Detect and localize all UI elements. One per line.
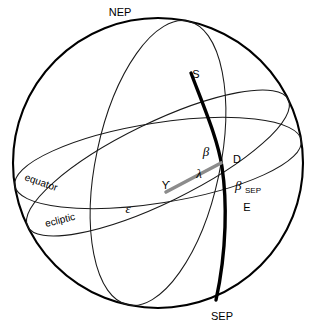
equator-great-circle (9, 101, 308, 225)
equator-label: equator (23, 171, 59, 193)
ecliptic-ellipse (10, 63, 306, 262)
epsilon-label: ε (125, 201, 131, 216)
lambda-radius-line (166, 163, 221, 192)
beta-sep-subscript: SEP (245, 186, 261, 195)
ecliptic-meridian-arc (191, 73, 225, 300)
sphere-outline (13, 18, 303, 308)
ecliptic-great-circle (10, 63, 306, 262)
celestial-sphere-diagram: NEP SEP S D E equator ecliptic ϒ β λ ε β… (0, 0, 320, 326)
beta-label: β (202, 144, 210, 159)
lambda-label: λ (195, 166, 202, 181)
east-point-label: E (243, 201, 250, 213)
vernal-equinox-symbol: ϒ (162, 179, 171, 191)
star-label: S (192, 68, 199, 80)
beta-sep-base: β (234, 178, 242, 193)
foot-point-label: D (233, 153, 241, 165)
ecliptic-label: ecliptic (44, 211, 76, 229)
beta-sep-label: β SEP (234, 178, 261, 195)
equator-ellipse (9, 101, 308, 225)
sep-label: SEP (211, 310, 233, 322)
sphere-drawing-canvas: NEP SEP S D E equator ecliptic ϒ β λ ε β… (0, 0, 320, 326)
nep-label: NEP (109, 6, 132, 18)
